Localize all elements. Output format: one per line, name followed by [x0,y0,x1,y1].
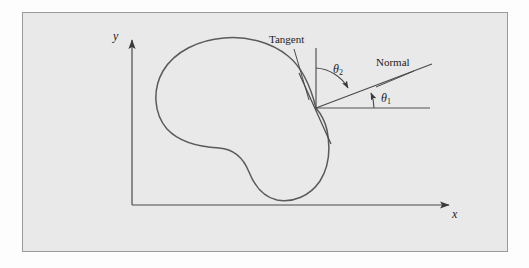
tangent-label: Tangent [269,34,304,45]
diagram-canvas [0,0,529,268]
theta1-label: θ1 [381,92,391,106]
closed-curve [156,38,329,201]
tangent-leader-line [294,49,309,100]
x-axis-label: x [452,208,457,220]
normal-leader-line [376,71,414,87]
theta2-arc [316,68,348,88]
theta2-subscript: 2 [339,68,343,77]
normal-label: Normal [376,57,410,68]
theta2-label: θ2 [333,63,343,77]
figure-page: Tangent Normal y x θ2 θ1 [0,0,529,268]
theta1-arc [371,93,374,108]
theta1-subscript: 1 [387,97,391,106]
y-axis-label: y [113,30,118,42]
